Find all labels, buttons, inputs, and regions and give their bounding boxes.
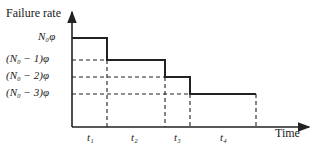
level-label-0: N₀φ <box>38 30 55 42</box>
interval-label-t2: t₂ <box>131 131 138 143</box>
interval-label-t1: t₁ <box>87 131 94 143</box>
level-label-1: (N₀ − 1)φ <box>6 52 49 64</box>
level-label-3: (N₀ − 3)φ <box>6 86 49 98</box>
interval-label-t3: t₃ <box>174 131 181 143</box>
level-label-2: (N₀ − 2)φ <box>6 69 49 81</box>
failure-rate-step-line <box>72 38 256 94</box>
interval-label-t4: t₄ <box>220 131 227 143</box>
y-axis-label: Failure rate <box>6 6 61 21</box>
x-axis-label: Time <box>275 126 300 141</box>
